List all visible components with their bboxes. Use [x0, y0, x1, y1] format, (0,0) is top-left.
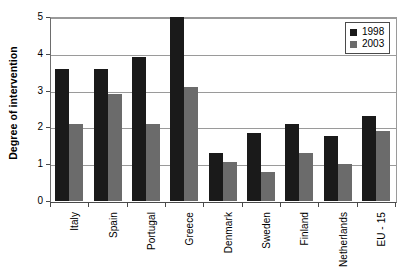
y-tick-label: 4	[37, 47, 43, 60]
x-axis-label-text: Finland	[299, 212, 310, 246]
x-axis-label: Denmark	[216, 210, 230, 276]
x-axis-label-text: Sweden	[261, 212, 272, 249]
legend-swatch-icon	[350, 29, 357, 36]
bar-1998	[209, 153, 223, 201]
bar-1998	[324, 136, 338, 201]
y-axis-tick: 1	[0, 164, 50, 165]
x-axis-tick	[88, 202, 89, 207]
bar-1998	[94, 69, 108, 201]
y-axis-title: Degree of intervention	[0, 0, 26, 205]
bar-2003	[108, 94, 122, 201]
x-axis-label-text: Denmark	[223, 212, 234, 253]
x-axis-label: Spain	[101, 210, 115, 276]
y-axis-tick: 4	[0, 54, 50, 55]
x-axis-label-text: Netherlands	[338, 212, 349, 267]
y-tick-label: 1	[37, 157, 43, 170]
bars-layer	[50, 17, 395, 201]
x-axis-label-text: EU - 15	[376, 212, 387, 247]
bar-2003	[261, 172, 275, 201]
bar-1998	[285, 124, 299, 201]
x-axis-tick	[395, 202, 396, 207]
x-axis-label-text: Portugal	[146, 212, 157, 250]
bar-2003	[299, 153, 313, 201]
x-axis-label-text: Spain	[108, 212, 119, 238]
x-axis-label: EU - 15	[369, 210, 383, 276]
bar-group	[209, 17, 237, 201]
bar-2003	[338, 164, 352, 201]
legend: 19982003	[345, 22, 390, 54]
x-axis-label: Finland	[292, 210, 306, 276]
x-axis-tick	[242, 202, 243, 207]
y-tick-label: 2	[37, 120, 43, 133]
bar-1998	[247, 133, 261, 201]
y-axis-tick: 3	[0, 91, 50, 92]
y-axis-title-text: Degree of intervention	[7, 46, 19, 160]
bar-group	[94, 17, 122, 201]
y-axis-tick: 0	[0, 201, 50, 202]
x-axis-tick	[50, 202, 51, 207]
x-axis-label: Netherlands	[331, 210, 345, 276]
x-axis-tick	[203, 202, 204, 207]
bar-2003	[69, 124, 83, 201]
bar-1998	[132, 57, 146, 201]
bar-2003	[223, 162, 237, 201]
bar-2003	[184, 87, 198, 201]
bar-2003	[146, 124, 160, 201]
bar-1998	[55, 69, 69, 201]
bar-group	[132, 17, 160, 201]
bar-group	[55, 17, 83, 201]
legend-label: 1998	[362, 26, 384, 38]
bar-group	[285, 17, 313, 201]
bar-chart: Degree of intervention 012345 ItalySpain…	[0, 0, 412, 280]
bar-1998	[170, 17, 184, 201]
legend-swatch-icon	[350, 41, 357, 48]
x-axis-label-text: Italy	[69, 212, 80, 231]
bar-group	[170, 17, 198, 201]
x-axis-tick	[357, 202, 358, 207]
legend-label: 2003	[362, 38, 384, 50]
x-axis-label-text: Greece	[184, 212, 195, 245]
bar-1998	[362, 116, 376, 201]
x-axis-label: Portugal	[139, 210, 153, 276]
y-axis-tick: 2	[0, 127, 50, 128]
legend-item: 1998	[350, 26, 384, 38]
bar-2003	[376, 131, 390, 201]
x-axis-tick	[127, 202, 128, 207]
x-axis-tick	[165, 202, 166, 207]
x-axis-tick	[318, 202, 319, 207]
y-tick-label: 3	[37, 84, 43, 97]
y-tick-label: 0	[37, 194, 43, 207]
y-tick-label: 5	[37, 10, 43, 23]
bar-group	[247, 17, 275, 201]
y-axis-tick: 5	[0, 17, 50, 18]
x-axis-label: Italy	[62, 210, 76, 276]
x-axis-label: Sweden	[254, 210, 268, 276]
x-axis-label: Greece	[177, 210, 191, 276]
x-axis-tick	[280, 202, 281, 207]
legend-item: 2003	[350, 38, 384, 50]
